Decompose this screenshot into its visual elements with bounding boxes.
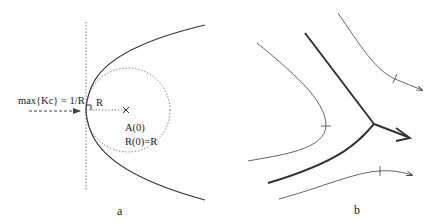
panel-b-label: b <box>354 203 360 217</box>
radius-label: R <box>96 97 103 108</box>
panel-a: max{Kc} = 1/R R A(0) R(0)=R a <box>18 22 205 218</box>
thick-arrow <box>374 124 408 137</box>
thick-line-upper <box>305 33 374 124</box>
point-label: A(0) <box>125 122 145 134</box>
thin-curve-bottom <box>279 171 412 199</box>
radius-equation-label: R(0)=R <box>125 136 157 148</box>
thin-curve-left <box>248 43 326 161</box>
max-curvature-label: max{Kc} = 1/R <box>18 95 85 106</box>
panel-b: b <box>248 13 422 217</box>
x-marker-icon <box>123 107 129 113</box>
thin-curve-top-right <box>338 13 422 90</box>
panel-a-label: a <box>117 204 123 218</box>
figure: max{Kc} = 1/R R A(0) R(0)=R a b <box>0 0 436 224</box>
parabola-curve <box>86 25 205 200</box>
